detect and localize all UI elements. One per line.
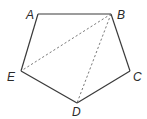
pentagon-sides xyxy=(21,14,130,103)
side-bc xyxy=(111,14,130,71)
vertex-label-b: B xyxy=(117,8,125,22)
diagonal-bd xyxy=(77,14,111,103)
vertex-label-c: C xyxy=(133,70,142,84)
diagonal-be xyxy=(21,14,111,71)
side-de xyxy=(21,71,77,103)
pentagon-diagram: A B C D E xyxy=(0,0,147,119)
vertex-label-d: D xyxy=(72,105,81,119)
vertex-labels: A B C D E xyxy=(7,8,142,119)
vertex-label-a: A xyxy=(25,8,34,22)
vertex-label-e: E xyxy=(7,70,16,84)
side-cd xyxy=(77,71,130,103)
side-ea xyxy=(21,14,38,71)
